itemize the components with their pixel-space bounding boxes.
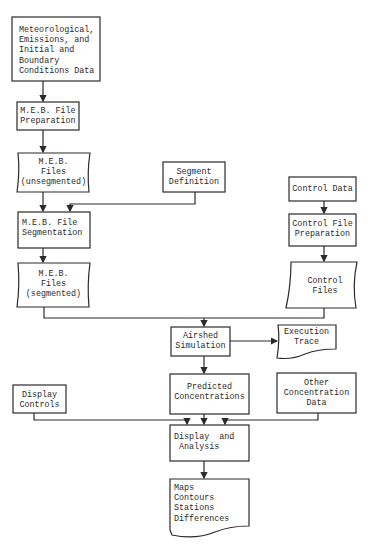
display-analysis-label: Display and Analysis bbox=[174, 432, 234, 452]
control-prep-label: Control File Preparation bbox=[289, 219, 356, 239]
segment-def-label: Segment Definition bbox=[163, 167, 225, 187]
meb-seg-label: M.E.B. Files (segmented) bbox=[17, 269, 90, 300]
display-controls-label: Display Controls bbox=[13, 390, 66, 410]
airshed-label: Airshed Simulation bbox=[171, 331, 230, 351]
meb-prep-label: M.E.B. File Preparation bbox=[17, 106, 79, 126]
other-conc-label: Other Concentration Data bbox=[277, 378, 356, 409]
meb-unseg-label: M.E.B. Files (unsegmented) bbox=[17, 157, 90, 188]
input-data-label: Meteorological, Emissions, and Initial a… bbox=[19, 25, 94, 76]
control-files-label: Control Files bbox=[294, 276, 356, 296]
control-data-label: Control Data bbox=[289, 184, 356, 194]
exec-trace-label: Execution Trace bbox=[277, 327, 336, 347]
predicted-label: Predicted Concentrations bbox=[170, 382, 249, 402]
meb-seg-proc-label: M.E.B. File Segmentation bbox=[22, 218, 82, 238]
outputs-label: Maps Contours Stations Differences bbox=[174, 483, 229, 524]
